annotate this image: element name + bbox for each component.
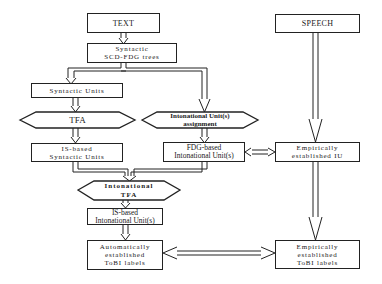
is-syntactic-units-node: IS-based Syntactic Units [31,143,123,162]
text-node-label: TEXT [113,19,135,28]
iu-assignment-node: Intonational Unit(s) assignment [142,112,258,128]
auto-tobi-line1: Automatically [100,243,150,251]
speech-node-label: SPEECH [302,19,334,28]
empirical-tobi-line2: established [298,251,338,259]
auto-tobi-line3: ToBI labels [104,259,145,267]
syntactic-trees-line2: SCD-FDG trees [104,53,159,61]
fdg-iu-line2: Intonational Unit(s) [174,152,233,160]
is-syntactic-units-line2: Syntactic Units [50,153,105,161]
syntactic-trees-line1: Syntactic [115,45,148,53]
is-iu-line2: Intonational Unit(s) [95,217,154,225]
syntactic-trees-node: Syntactic SCD-FDG trees [87,43,177,63]
tfa-node: TFA [20,112,135,128]
text-node: TEXT [87,13,160,33]
is-iu-node: IS-based Intonational Unit(s) [87,208,163,225]
empirical-tobi-node: Empirically established ToBI labels [275,240,360,269]
is-syntactic-units-line1: IS-based [62,145,93,153]
auto-tobi-node: Automatically established ToBI labels [87,240,163,270]
empirical-iu-line1: Empirically [297,144,339,152]
tfa-label: TFA [69,116,85,124]
auto-tobi-line2: established [105,251,145,259]
iu-assignment-line2: assignment [183,120,216,128]
iu-assignment-line1: Intonational Unit(s) [170,112,229,120]
intonational-tfa-line1: Intonational [105,182,154,191]
fdg-iu-node: FDG-based Intonational Unit(s) [163,142,245,162]
empirical-tobi-line3: ToBI labels [297,259,338,267]
empirical-iu-line2: established IU [292,152,343,160]
syntactic-units-node: Syntactic Units [31,83,123,98]
speech-node: SPEECH [275,14,360,33]
intonational-tfa-node: Intonational TFA [78,181,180,200]
syntactic-units-label: Syntactic Units [50,87,105,95]
intonational-tfa-line2: TFA [121,191,137,200]
empirical-tobi-line1: Empirically [297,243,339,251]
empirical-iu-node: Empirically established IU [275,142,360,162]
